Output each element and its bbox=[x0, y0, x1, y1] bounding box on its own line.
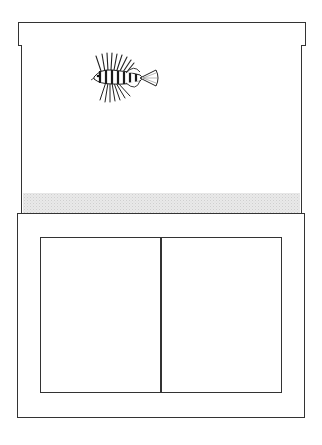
cabinet-door-left bbox=[41, 238, 161, 392]
cabinet-divider bbox=[160, 238, 162, 392]
lionfish-icon bbox=[90, 50, 162, 106]
aquarium-gravel bbox=[23, 193, 300, 213]
cabinet-door-right bbox=[162, 238, 280, 392]
aquarium-lid bbox=[18, 22, 306, 46]
